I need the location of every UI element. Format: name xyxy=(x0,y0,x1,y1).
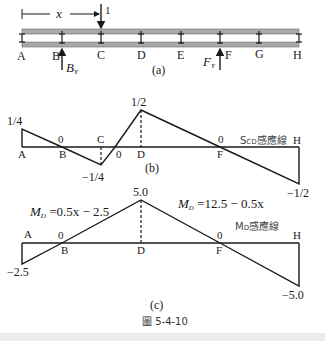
value-h-c: −5.0 xyxy=(282,288,304,302)
panel-a-label: (a) xyxy=(152,63,165,77)
bottom-bar xyxy=(0,333,325,341)
node-g-label: G xyxy=(255,47,264,61)
panel-a-truss-beam: x 1 A B C D E F G H BY FY xyxy=(17,4,302,77)
node-b-label: B xyxy=(52,49,60,63)
value-h: −1/2 xyxy=(287,186,309,200)
equation-left: MD =0.5x − 2.5 xyxy=(29,204,109,220)
value-f-zero-c: 0 xyxy=(217,229,223,241)
node-c-label: C xyxy=(97,48,105,62)
equation-right: MD =12.5 − 0.5x xyxy=(177,196,264,212)
node-e-label: E xyxy=(177,48,184,62)
node-f-label: F xyxy=(225,48,232,62)
panel-b-shear-influence-line: 1/4 0 −1/4 0 1/2 0 −1/2 A B C D F H SCD感… xyxy=(7,95,309,200)
unit-load-label: 1 xyxy=(105,4,111,16)
panel-c-label: (c) xyxy=(150,298,163,312)
dimension-x-label: x xyxy=(55,6,62,21)
value-cd-zero: 0 xyxy=(116,148,122,160)
b-node-b: B xyxy=(59,148,66,160)
c-node-a: A xyxy=(24,228,32,240)
c-node-f: F xyxy=(216,244,222,256)
shear-title: SCD感應線 xyxy=(240,134,287,146)
reaction-b-label: BY xyxy=(66,60,79,76)
value-f-zero: 0 xyxy=(218,133,224,145)
c-node-h: H xyxy=(293,229,301,241)
value-c: −1/4 xyxy=(82,170,104,184)
node-a-label: A xyxy=(17,49,26,63)
top-chord xyxy=(22,29,299,34)
c-node-b: B xyxy=(61,244,68,256)
b-node-d: D xyxy=(137,148,145,160)
value-b-zero-c: 0 xyxy=(58,229,64,241)
figure-caption: 圖 5-4-10 xyxy=(142,316,188,327)
c-node-d: D xyxy=(137,244,145,256)
panel-b-label: (b) xyxy=(145,161,159,175)
b-node-h: H xyxy=(293,134,301,146)
b-node-c: C xyxy=(97,133,104,145)
b-node-a: A xyxy=(18,148,26,160)
value-b-zero: 0 xyxy=(58,133,64,145)
value-d: 1/2 xyxy=(131,95,146,109)
value-a-c: −2.5 xyxy=(7,265,29,279)
value-a: 1/4 xyxy=(7,114,22,128)
influence-line-figure: x 1 A B C D E F G H BY FY xyxy=(0,0,325,341)
moment-title: MD感應線 xyxy=(235,220,279,232)
node-d-label: D xyxy=(137,48,146,62)
panel-c-moment-influence-line: MD =0.5x − 2.5 MD =12.5 − 0.5x 5.0 −2.5 … xyxy=(7,185,304,312)
b-node-f: F xyxy=(217,148,223,160)
value-d-peak: 5.0 xyxy=(133,185,148,199)
reaction-f-label: FY xyxy=(202,54,216,70)
node-h-label: H xyxy=(293,48,302,62)
